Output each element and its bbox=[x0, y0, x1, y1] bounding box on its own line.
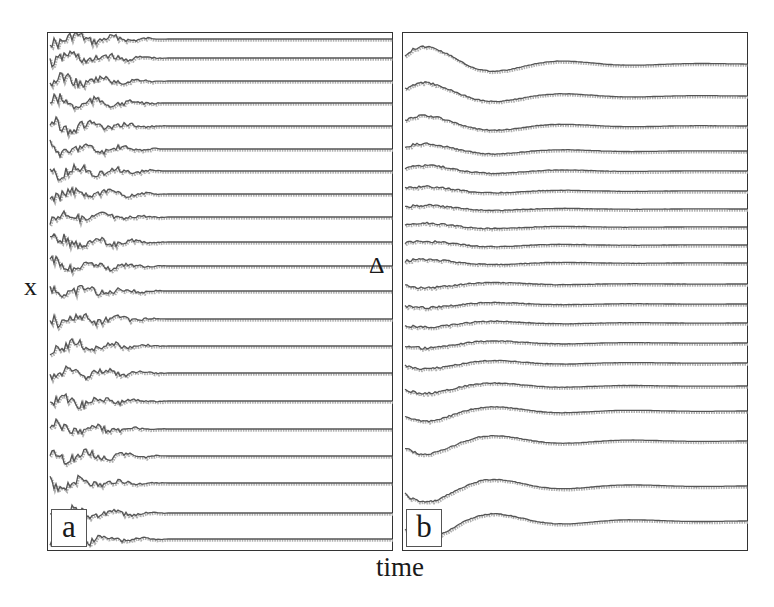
trace-line bbox=[50, 94, 392, 109]
trace-line bbox=[405, 514, 747, 539]
traces-panel-b bbox=[403, 33, 749, 552]
trace-line bbox=[405, 341, 747, 349]
trace-line bbox=[50, 475, 392, 491]
panel-label-a: a bbox=[51, 509, 87, 547]
trace-line bbox=[405, 383, 747, 394]
trace-line bbox=[50, 117, 392, 134]
trace-line bbox=[405, 479, 747, 502]
y-axis-label: x bbox=[24, 272, 37, 302]
trace-line bbox=[50, 140, 392, 157]
trace-line bbox=[50, 256, 392, 272]
trace-line bbox=[405, 46, 747, 71]
panel-b: b bbox=[402, 32, 748, 551]
panel-a: a bbox=[47, 32, 393, 551]
panel-label-b: b bbox=[406, 509, 442, 547]
delta-marker: Δ bbox=[369, 252, 384, 279]
trace-line bbox=[405, 82, 747, 102]
trace-line bbox=[50, 366, 392, 379]
traces-panel-a bbox=[48, 33, 394, 552]
trace-line bbox=[50, 286, 392, 298]
x-axis-label: time bbox=[376, 552, 424, 583]
trace-line bbox=[50, 505, 392, 521]
trace-line bbox=[405, 407, 747, 422]
